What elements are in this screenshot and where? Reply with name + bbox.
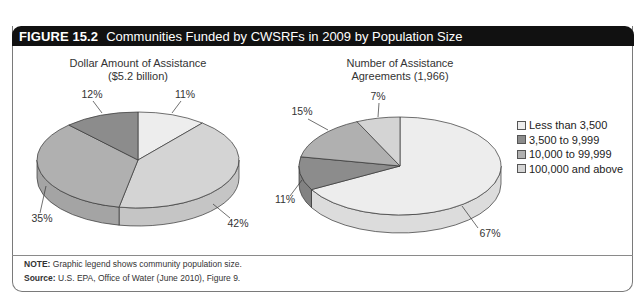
slice-label: 35%: [31, 212, 52, 224]
legend-item: 3,500 to 9,999: [517, 133, 623, 148]
chart-subtitle: ($5.2 billion): [108, 70, 168, 82]
legend-swatch: [517, 121, 526, 130]
slice-label: 15%: [291, 105, 312, 117]
source-label: Source:: [24, 273, 56, 283]
legend-label: Less than 3,500: [529, 119, 607, 131]
source-line: Source: U.S. EPA, Office of Water (June …: [24, 273, 240, 283]
slice-label: 11%: [175, 88, 195, 100]
legend-item: 10,000 to 99,999: [517, 147, 623, 162]
pie-chart-dollar-amount: [37, 112, 239, 226]
legend: Less than 3,500 3,500 to 9,999 10,000 to…: [517, 118, 623, 176]
legend-label: 100,000 and above: [529, 163, 623, 175]
legend-label: 3,500 to 9,999: [529, 134, 599, 146]
legend-swatch: [517, 135, 526, 144]
slice-label: 7%: [370, 90, 385, 102]
slice-label: 11%: [275, 193, 295, 205]
pie-chart-agreements: [299, 117, 501, 233]
footer-divider: [12, 255, 633, 256]
legend-swatch: [517, 150, 526, 159]
legend-item: Less than 3,500: [517, 118, 623, 133]
legend-label: 10,000 to 99,999: [529, 148, 612, 160]
source-text: U.S. EPA, Office of Water (June 2010), F…: [56, 273, 241, 283]
legend-swatch: [517, 164, 526, 173]
chart-subtitle: Agreements (1,966): [351, 70, 448, 82]
chart-title: Dollar Amount of Assistance: [70, 57, 207, 69]
note-line: NOTE: Graphic legend shows community pop…: [24, 259, 242, 269]
slice-label: 12%: [81, 88, 102, 100]
note-label: NOTE:: [24, 259, 50, 269]
legend-item: 100,000 and above: [517, 162, 623, 177]
chart-title: Number of Assistance: [347, 57, 454, 69]
slice-label: 67%: [479, 227, 500, 239]
slice-label: 42%: [227, 217, 248, 229]
note-text: Graphic legend shows community populatio…: [50, 259, 241, 269]
